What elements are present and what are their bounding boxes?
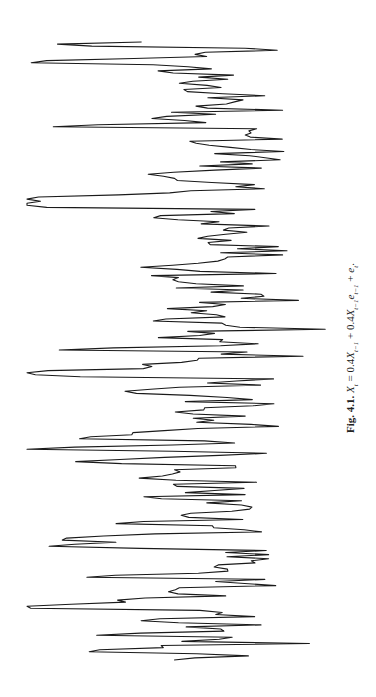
- eq-x2: X: [344, 310, 356, 317]
- eq-e2-sub: t: [352, 266, 360, 268]
- eq-text: + 0.4: [344, 316, 356, 341]
- eq-text: +: [344, 273, 356, 285]
- eq-lhs-sub: t: [352, 384, 360, 386]
- time-series-plot: [0, 0, 376, 697]
- eq-x1-sub: t−1: [352, 342, 360, 352]
- eq-x1: X: [344, 352, 356, 359]
- eq-e1: e: [344, 295, 356, 300]
- eq-lhs: X: [344, 386, 356, 393]
- eq-e2: e: [344, 268, 356, 273]
- series-line: [27, 42, 325, 660]
- figure-caption: Fig. 4.1. Xt = 0.4Xt−1 + 0.4Xt−1et−1 + e…: [344, 263, 359, 433]
- figure-label: Fig. 4.1.: [344, 396, 356, 433]
- eq-e1-sub: t−1: [352, 284, 360, 294]
- eq-text: = 0.4: [344, 359, 356, 384]
- eq-text: .: [344, 263, 356, 266]
- eq-x2-sub: t−1: [352, 299, 360, 309]
